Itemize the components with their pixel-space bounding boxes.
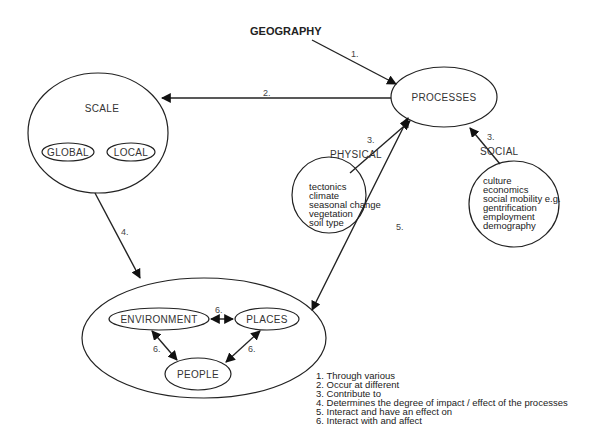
human-environment-node: ENVIRONMENT PLACES PEOPLE 6. 6. 6. (82, 278, 326, 398)
edge-6-places-people: 6. (226, 331, 260, 362)
environment-node: ENVIRONMENT (109, 308, 209, 330)
edge-1-label: 1. (351, 49, 359, 59)
local-node: LOCAL (107, 143, 155, 161)
edge-2-label: 2. (263, 88, 271, 98)
edge-6-label: 6. (248, 344, 256, 354)
social-label: SOCIAL (480, 146, 519, 157)
physical-factors-node: tectonics climate seasonal change vegeta… (292, 157, 381, 233)
environment-label: ENVIRONMENT (120, 314, 197, 325)
edge-3-physical-arrow: 3. PHYSICAL (330, 121, 410, 173)
diagram-title: GEOGRAPHY (250, 25, 322, 37)
social-factors-node: culture economics social mobility e.g. g… (469, 161, 561, 247)
processes-label: PROCESSES (412, 92, 477, 103)
edge-4-arrow: 4. (95, 193, 140, 278)
people-node: PEOPLE (165, 358, 231, 390)
edge-6-environment-people: 6. (152, 331, 177, 360)
social-item: demography (483, 220, 536, 231)
edge-6-label: 6. (153, 344, 161, 354)
edge-4-label: 4. (121, 227, 129, 237)
global-label: GLOBAL (47, 147, 89, 158)
edge-5-label: 5. (396, 222, 404, 232)
edge-3-social-arrow: 3. SOCIAL (470, 128, 519, 164)
processes-node: PROCESSES (391, 67, 497, 127)
global-node: GLOBAL (42, 143, 94, 161)
edge-1-arrow: 1. (312, 40, 396, 84)
edge-3-social-label: 3. (487, 132, 495, 142)
people-label: PEOPLE (177, 369, 219, 380)
scale-label: SCALE (85, 103, 119, 114)
places-label: PLACES (246, 314, 287, 325)
places-node: PLACES (235, 308, 299, 330)
edge-3-physical-label: 3. (367, 135, 375, 145)
physical-item: soil type (309, 217, 344, 228)
legend: 1. Through various 2. Occur at different… (316, 370, 568, 426)
edge-2-arrow: 2. (162, 88, 391, 98)
legend-item: 6. Interact with and affect (316, 415, 422, 426)
local-label: LOCAL (114, 147, 148, 158)
edge-6-label: 6. (215, 305, 223, 315)
edge-6-environment-places: 6. (211, 305, 233, 319)
scale-node: SCALE GLOBAL LOCAL (28, 73, 168, 193)
geography-concept-diagram: GEOGRAPHY 1. PROCESSES 2. SCALE GLOBAL L… (0, 0, 596, 448)
